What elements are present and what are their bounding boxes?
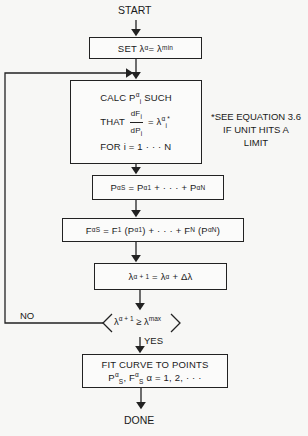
calc-line-1: CALC Pαi SUCH xyxy=(100,90,172,106)
ps-sum-box: PαS = Pα1 + · · · + PαN xyxy=(92,175,224,200)
yes-branch-label: YES xyxy=(144,335,163,346)
set-lambda-box: SET λα = λmin xyxy=(89,37,202,59)
derivative-fraction: dFi dPi xyxy=(130,106,143,139)
equation-note: *SEE EQUATION 3.6 IF UNIT HITS A LIMIT xyxy=(208,110,304,149)
fit-line-1: FIT CURVE TO POINTS xyxy=(101,358,208,371)
fs-sum-box: FαS = F1 (Pα1) + · · · + FN (PαN) xyxy=(62,218,244,242)
calc-line-2: THAT dFi dPi = λαi* xyxy=(100,106,172,139)
calc-line-3: FOR i = 1 · · · N xyxy=(100,139,172,155)
fit-line-2: PαS, FαS α = 1, 2, · · · xyxy=(108,371,201,384)
fit-curve-box: FIT CURVE TO POINTS PαS, FαS α = 1, 2, ·… xyxy=(82,354,228,388)
start-terminal: START xyxy=(118,4,151,16)
calc-box: CALC Pαi SUCH THAT dFi dPi = λαi* FOR i … xyxy=(70,80,202,164)
set-text-pre: SET λ xyxy=(118,43,145,54)
decision-condition: λα + 1 ≥ λmax xyxy=(114,316,161,327)
no-branch-label: NO xyxy=(20,310,34,321)
lambda-update-box: λα + 1 = λα + Δλ xyxy=(94,263,227,290)
done-terminal: DONE xyxy=(124,414,154,426)
